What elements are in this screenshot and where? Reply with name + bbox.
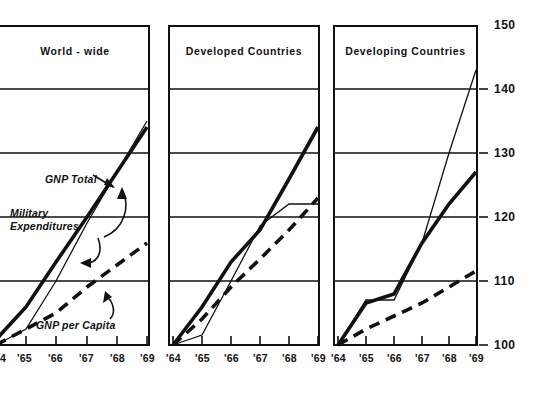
annotation-gnp-per-capita: GNP per Capita bbox=[36, 319, 115, 331]
x-tick-label-p2-64: '64 bbox=[166, 352, 181, 364]
gridlines-world-wide bbox=[0, 89, 150, 281]
annotation-military-line2: Expenditures bbox=[10, 220, 79, 233]
chart-figure: World - wide bbox=[0, 0, 534, 395]
x-tick-label-p3-68: '68 bbox=[442, 352, 457, 364]
x-tick-label-p1-65: '65 bbox=[17, 352, 32, 364]
y-tick-label-100: 100 bbox=[494, 338, 516, 352]
x-tick-label-p2-66: '66 bbox=[224, 352, 239, 364]
annotation-military-line1: Military bbox=[10, 207, 79, 220]
x-tick-label-p3-69: '69 bbox=[469, 352, 484, 364]
leader-military-expenditures bbox=[82, 238, 100, 263]
x-tick-label-p3-65: '65 bbox=[359, 352, 374, 364]
x-tick-label-p1-64: 4 bbox=[0, 352, 6, 364]
series-gnp-total-world-wide bbox=[0, 127, 147, 345]
x-tick-label-p1-69: '69 bbox=[140, 352, 155, 364]
x-tick-label-p3-67: '67 bbox=[415, 352, 430, 364]
y-tick-label-150: 150 bbox=[494, 18, 516, 32]
y-tick-label-110: 110 bbox=[494, 274, 515, 288]
plot-area-world-wide bbox=[0, 25, 150, 345]
y-tick-label-120: 120 bbox=[494, 210, 516, 224]
x-tick-label-p1-67: '67 bbox=[79, 352, 94, 364]
gridlines-developing-countries bbox=[333, 89, 478, 281]
x-tick-label-p3-64: '64 bbox=[331, 352, 346, 364]
panel-developed-countries: Developed Countries bbox=[168, 25, 320, 345]
series-gnp-per-capita-developed-countries bbox=[173, 198, 318, 345]
plot-area-developed-countries bbox=[168, 25, 320, 345]
gridlines-developed-countries bbox=[168, 89, 320, 281]
annotation-gnp-total: GNP Total bbox=[45, 173, 97, 185]
series-gnp-per-capita-developing-countries bbox=[338, 271, 476, 345]
x-tick-label-p2-67: '67 bbox=[253, 352, 268, 364]
arrowhead-crossing-arc bbox=[117, 187, 127, 199]
y-tick-label-140: 140 bbox=[494, 82, 516, 96]
x-tick-label-p1-66: '66 bbox=[48, 352, 63, 364]
panel-world-wide: World - wide bbox=[0, 25, 150, 345]
y-axis-ticks bbox=[478, 19, 498, 351]
series-gnp-total-developing-countries bbox=[338, 172, 476, 345]
plot-area-developing-countries bbox=[333, 25, 478, 345]
x-tick-label-p3-66: '66 bbox=[387, 352, 402, 364]
annotation-military-expenditures: Military Expenditures bbox=[10, 207, 79, 232]
x-tick-label-p1-68: '68 bbox=[110, 352, 125, 364]
y-tick-label-130: 130 bbox=[494, 146, 516, 160]
series-military-expenditures-developed-countries bbox=[173, 204, 318, 345]
arrowhead-military-expenditures bbox=[80, 258, 91, 268]
series-gnp-total-developed-countries bbox=[173, 127, 318, 345]
series-military-expenditures-developing-countries bbox=[338, 70, 476, 345]
x-tick-label-p2-69: '69 bbox=[311, 352, 326, 364]
panel-developing-countries: Developing Countries bbox=[333, 25, 478, 345]
x-ticks-developing-countries bbox=[338, 336, 476, 345]
x-tick-label-p2-68: '68 bbox=[282, 352, 297, 364]
x-ticks-world-wide bbox=[26, 336, 147, 345]
x-tick-label-p2-65: '65 bbox=[195, 352, 210, 364]
